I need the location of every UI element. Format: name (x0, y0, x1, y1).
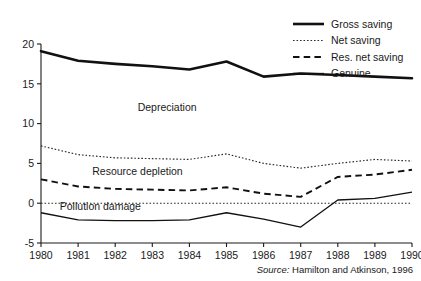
y-tick-label: 5 (28, 157, 34, 169)
x-tick-label: 1988 (326, 249, 350, 261)
annotation-label: Pollution damage (60, 200, 141, 212)
legend-item: Gross saving (293, 18, 392, 30)
chart-svg: -505101520 19801981198219831984198519861… (0, 0, 421, 281)
x-tick-label: 1982 (104, 249, 128, 261)
x-tick-label: 1989 (363, 249, 387, 261)
legend-item: Res. net saving (293, 51, 404, 63)
y-tick-label: 0 (28, 197, 34, 209)
legend-item: Net saving (293, 34, 381, 46)
legend-label: Res. net saving (331, 51, 404, 63)
chart-legend: Gross savingNet savingRes. net savingGen… (293, 18, 404, 80)
x-tick-label: 1980 (29, 249, 53, 261)
x-axis-ticks: 1980198119821983198419851986198719881989… (29, 243, 421, 261)
annotation-label: Resource depletion (92, 165, 183, 177)
legend-item: Genuine (293, 67, 371, 79)
source-prefix: Source: (257, 264, 290, 275)
source-note: Source: Hamilton and Atkinson, 1996 (257, 264, 413, 275)
source-text: Hamilton and Atkinson, 1996 (289, 264, 413, 275)
legend-label: Net saving (331, 34, 381, 46)
chart-container: -505101520 19801981198219831984198519861… (0, 0, 421, 281)
legend-label: Genuine (331, 67, 371, 79)
x-tick-label: 1987 (289, 249, 313, 261)
x-tick-label: 1984 (178, 249, 202, 261)
y-tick-label: 20 (22, 38, 34, 50)
x-tick-label: 1981 (66, 249, 90, 261)
y-tick-label: -5 (25, 237, 34, 249)
x-tick-label: 1985 (215, 249, 239, 261)
y-tick-label: 10 (22, 117, 34, 129)
y-tick-label: 15 (22, 78, 34, 90)
x-tick-label: 1983 (141, 249, 165, 261)
annotation-label: Depreciation (138, 101, 197, 113)
chart-annotations: DepreciationResource depletionPollution … (60, 101, 197, 213)
x-tick-label: 1986 (252, 249, 276, 261)
x-tick-label: 1990 (400, 249, 421, 261)
y-axis-ticks: -505101520 (22, 38, 41, 249)
legend-label: Gross saving (331, 18, 392, 30)
